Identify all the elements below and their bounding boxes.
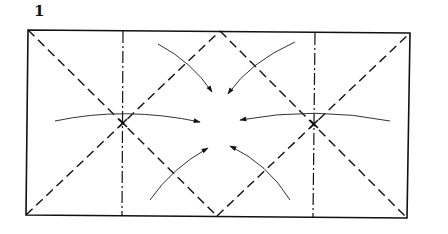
- arrow-bottom-left-icon: [150, 148, 208, 200]
- paper-outline: [26, 30, 410, 218]
- mountain-folds: [122, 31, 315, 217]
- arrow-top-left-icon: [158, 44, 212, 92]
- intersection-marks: [119, 119, 318, 128]
- fold-arrows: [55, 42, 390, 200]
- fold-diagram: [0, 0, 448, 234]
- arrow-bottom-right-icon: [230, 146, 290, 200]
- arrow-top-right-icon: [228, 42, 295, 94]
- valley-folds: [26, 30, 410, 218]
- arrow-right-icon: [240, 113, 390, 121]
